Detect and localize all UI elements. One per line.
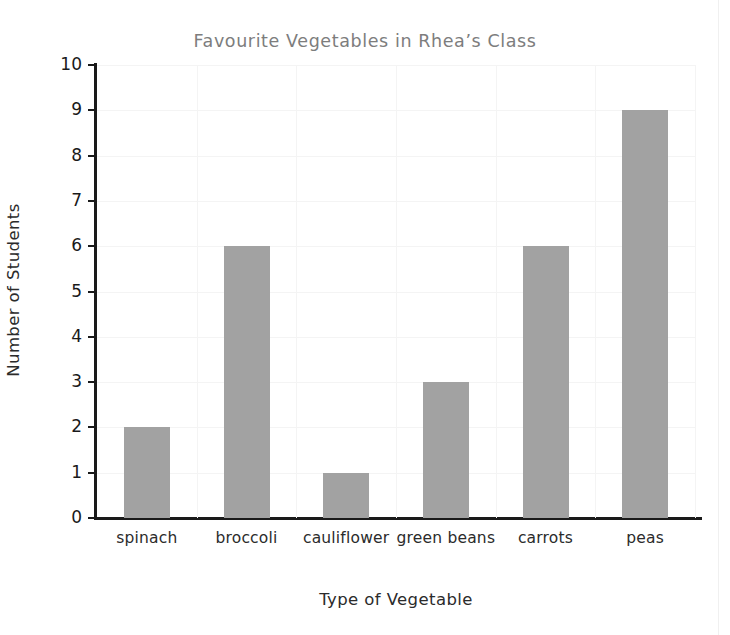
y-axis-tick	[88, 336, 97, 338]
y-axis-tick	[88, 517, 97, 519]
page-edge-artifact	[718, 0, 719, 635]
y-axis-tick-label: 9	[48, 101, 82, 118]
y-axis-tick-label: 8	[48, 147, 82, 164]
gridline-vertical	[296, 65, 297, 518]
y-axis-tick-label: 1	[48, 464, 82, 481]
y-axis-tick-label: 5	[48, 283, 82, 300]
x-axis-tick-label: broccoli	[190, 528, 304, 548]
x-axis-tick-label: peas	[588, 528, 702, 548]
bar[interactable]	[124, 427, 170, 518]
y-axis-title: Number of Students	[4, 170, 23, 410]
y-axis-tick-label: 10	[48, 56, 82, 73]
y-axis-tick	[88, 245, 97, 247]
x-axis-tick-label: cauliflower	[289, 528, 403, 548]
bar[interactable]	[423, 382, 469, 518]
y-axis-tick-label: 3	[48, 373, 82, 390]
y-axis-tick	[88, 109, 97, 111]
bar[interactable]	[622, 110, 668, 518]
bar[interactable]	[224, 246, 270, 518]
x-axis-tick-label: green beans	[389, 528, 503, 548]
chart-title: Favourite Vegetables in Rhea’s Class	[0, 31, 730, 51]
y-axis-tick-label: 4	[48, 328, 82, 345]
gridline-vertical	[595, 65, 596, 518]
gridline-vertical	[496, 65, 497, 518]
plot-area	[97, 65, 695, 518]
chart-page: Favourite Vegetables in Rhea’s Class Num…	[0, 0, 730, 635]
y-axis-tick	[88, 64, 97, 66]
y-axis-tick-label: 6	[48, 237, 82, 254]
bar[interactable]	[323, 473, 369, 518]
y-axis-tick	[88, 291, 97, 293]
y-axis-tick	[88, 381, 97, 383]
gridline-vertical	[695, 65, 696, 518]
bar[interactable]	[523, 246, 569, 518]
y-axis-tick	[88, 155, 97, 157]
gridline-vertical	[197, 65, 198, 518]
gridline-vertical	[396, 65, 397, 518]
x-axis-title: Type of Vegetable	[97, 590, 695, 609]
y-axis-tick	[88, 472, 97, 474]
x-axis-tick-label: carrots	[489, 528, 603, 548]
y-axis-tick-label: 0	[48, 509, 82, 526]
x-axis-tick-label: spinach	[90, 528, 204, 548]
y-axis-tick	[88, 426, 97, 428]
y-axis-tick-label: 7	[48, 192, 82, 209]
y-axis-tick	[88, 200, 97, 202]
y-axis-tick-label: 2	[48, 418, 82, 435]
